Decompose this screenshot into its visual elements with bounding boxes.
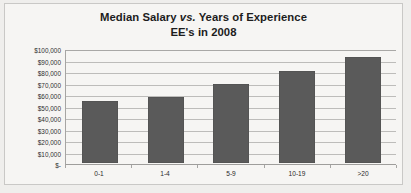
y-axis-labels: $100,000$90,000$80,000$70,000$60,000$50,… xyxy=(9,44,61,171)
bar-0-1[interactable] xyxy=(82,101,118,163)
y-axis-tick-label: $70,000 xyxy=(38,81,61,88)
chart-frame: Median Salary vs. Years of Experience EE… xyxy=(4,3,403,185)
x-axis-tick-label: 5-9 xyxy=(198,170,264,177)
bar-slot xyxy=(199,50,265,163)
plot-area xyxy=(65,50,396,165)
y-axis-tick-label: $90,000 xyxy=(38,58,61,65)
chart-title-line-1: Median Salary vs. Years of Experience xyxy=(5,10,402,25)
bar-slot xyxy=(67,50,133,163)
bar-series xyxy=(67,50,396,163)
bar-slot xyxy=(133,50,199,163)
bar-10-19[interactable] xyxy=(279,71,315,163)
y-axis-tick-label: $50,000 xyxy=(38,104,61,111)
x-axis-labels: 0-11-45-910-19>20 xyxy=(66,170,396,177)
y-axis-tick-label: $60,000 xyxy=(38,93,61,100)
x-axis-tick-mark xyxy=(197,165,198,168)
chart-title-line-1-pre: Median Salary xyxy=(100,11,180,23)
y-axis-tick-label: $30,000 xyxy=(38,127,61,134)
chart-title: Median Salary vs. Years of Experience EE… xyxy=(5,10,402,39)
x-axis-tick-label: 0-1 xyxy=(66,170,132,177)
y-axis-tick-label: $10,000 xyxy=(38,150,61,157)
x-axis-tick-label: 1-4 xyxy=(132,170,198,177)
bar-slot xyxy=(330,50,396,163)
chart-title-vs-italic: vs. xyxy=(180,11,196,23)
x-axis-tick-mark xyxy=(330,165,331,168)
chart-title-line-2: EE's in 2008 xyxy=(5,25,402,40)
y-axis-tick-label: $20,000 xyxy=(38,139,61,146)
bar-1-4[interactable] xyxy=(148,97,184,163)
x-axis-tick-label: 10-19 xyxy=(264,170,330,177)
bar->20[interactable] xyxy=(345,57,381,163)
y-axis-tick-label: $- xyxy=(55,162,61,169)
x-axis-tick-mark xyxy=(65,165,66,168)
bar-slot xyxy=(264,50,330,163)
y-axis-tick-label: $40,000 xyxy=(38,116,61,123)
x-axis-tick-mark xyxy=(131,165,132,168)
x-axis-tick-mark xyxy=(396,165,397,168)
chart-title-line-1-post: Years of Experience xyxy=(196,11,307,23)
bar-5-9[interactable] xyxy=(213,84,249,163)
x-axis-tick-mark xyxy=(264,165,265,168)
y-axis-tick-label: $80,000 xyxy=(38,70,61,77)
x-axis-tick-label: >20 xyxy=(330,170,396,177)
plot-wrapper xyxy=(65,50,396,165)
y-axis-tick-label: $100,000 xyxy=(34,47,61,54)
